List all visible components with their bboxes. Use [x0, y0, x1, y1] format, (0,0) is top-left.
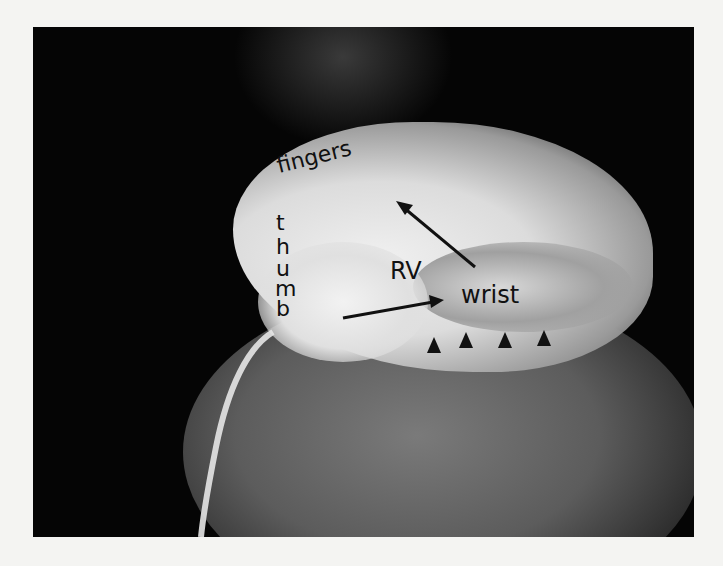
triangle-marker-icon: [498, 332, 512, 348]
label-thumb-letter: b: [276, 298, 302, 320]
label-thumb: t h u m b: [274, 212, 300, 320]
label-wrist: wrist: [461, 283, 519, 307]
label-thumb-letter: h: [276, 236, 302, 258]
arrow-to-wrist: [343, 302, 433, 318]
triangle-marker-icon: [427, 337, 441, 353]
annotation-overlay: [33, 27, 694, 537]
label-rv: RV: [390, 259, 422, 283]
triangle-marker-icon: [459, 332, 473, 348]
catheter-line: [201, 332, 273, 537]
arrowhead-wrist-icon: [429, 295, 444, 308]
label-thumb-letter: t: [276, 212, 302, 234]
triangle-marker-icon: [537, 330, 551, 346]
radiograph-image: fingers t h u m b RV wrist: [33, 27, 694, 537]
